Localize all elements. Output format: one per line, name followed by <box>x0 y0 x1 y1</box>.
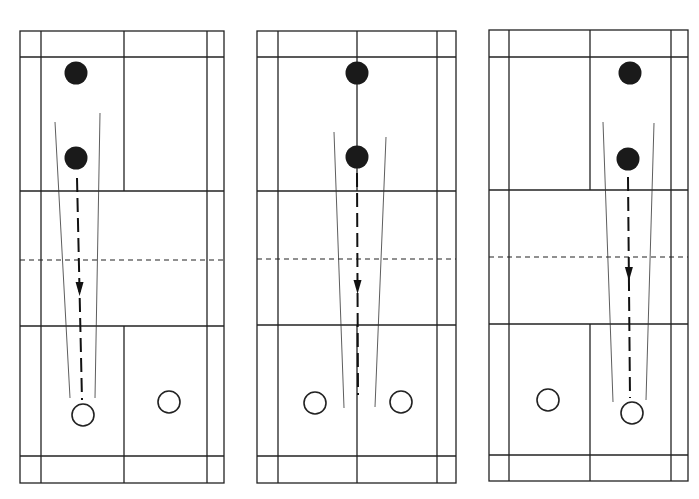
player-receiving-side <box>304 392 326 414</box>
court-boundary <box>489 30 688 481</box>
shot-angle-guide <box>603 122 613 402</box>
court-2 <box>257 31 456 483</box>
shot-angle-guide <box>95 113 100 398</box>
arrow-down-icon <box>354 280 362 294</box>
shuttle-path <box>628 177 630 398</box>
shot-angle-guide <box>375 137 386 407</box>
court-1 <box>20 31 224 483</box>
player-serving-side <box>619 62 642 85</box>
shot-angle-guide <box>334 132 344 408</box>
arrow-down-icon <box>625 267 633 281</box>
shot-angle-guide <box>646 123 654 400</box>
player-serving-side <box>346 146 369 169</box>
player-receiving-side <box>158 391 180 413</box>
player-serving-side <box>617 148 640 171</box>
player-receiving-side <box>621 402 643 424</box>
player-receiving-side <box>537 389 559 411</box>
badminton-diagram <box>0 0 699 499</box>
player-serving-side <box>346 62 369 85</box>
player-serving-side <box>65 62 88 85</box>
player-receiving-side <box>72 404 94 426</box>
player-serving-side <box>65 147 88 170</box>
player-receiving-side <box>390 391 412 413</box>
arrow-down-icon <box>76 282 84 296</box>
court-3 <box>489 30 688 481</box>
court-boundary <box>20 31 224 483</box>
